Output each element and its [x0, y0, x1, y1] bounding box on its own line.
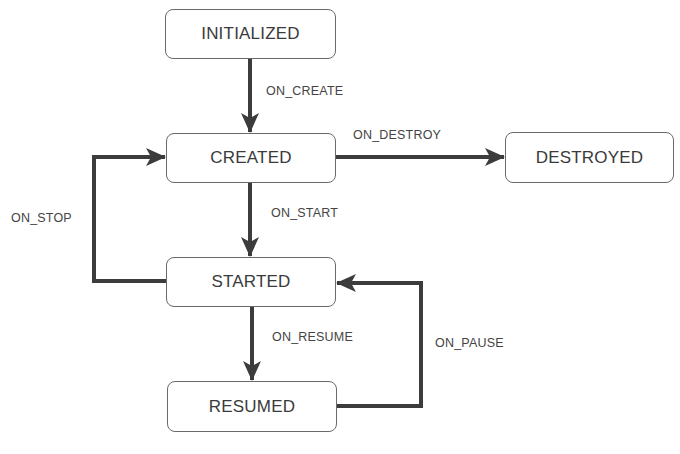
arrow-on-pause	[337, 283, 421, 406]
label-on-create: ON_CREATE	[266, 84, 343, 98]
state-created: CREATED	[166, 133, 336, 183]
transition-arrows	[0, 0, 680, 454]
state-label: DESTROYED	[536, 148, 644, 168]
state-initialized: INITIALIZED	[165, 9, 336, 59]
state-label: CREATED	[210, 148, 291, 168]
label-on-pause: ON_PAUSE	[435, 336, 504, 350]
label-on-resume: ON_RESUME	[272, 330, 353, 344]
label-on-start: ON_START	[271, 206, 338, 220]
state-resumed: RESUMED	[167, 381, 337, 432]
state-label: INITIALIZED	[201, 24, 300, 44]
state-started: STARTED	[166, 257, 336, 307]
state-destroyed: DESTROYED	[505, 132, 674, 183]
state-label: STARTED	[211, 272, 290, 292]
label-on-stop: ON_STOP	[11, 211, 72, 225]
state-diagram: INITIALIZED CREATED DESTROYED STARTED RE…	[0, 0, 680, 454]
label-on-destroy: ON_DESTROY	[353, 128, 441, 142]
state-label: RESUMED	[209, 397, 295, 417]
arrow-on-stop	[94, 157, 166, 281]
